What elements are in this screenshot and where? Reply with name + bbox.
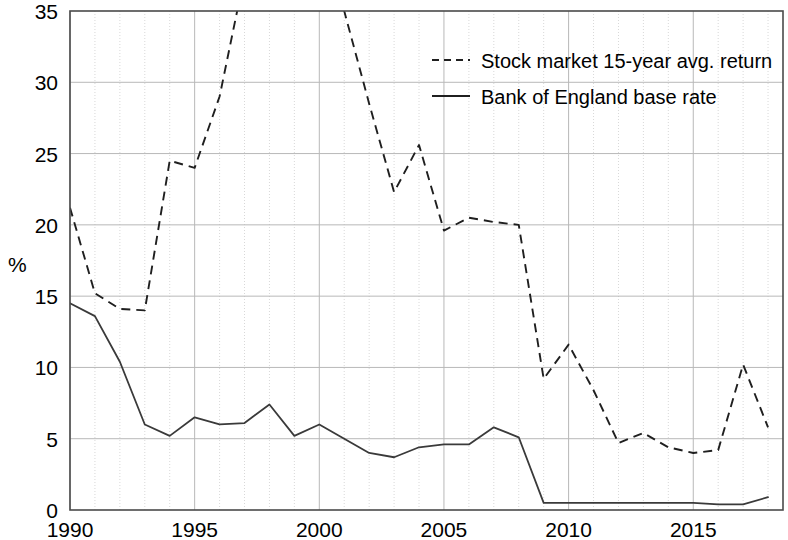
y-tick-label: 30 xyxy=(35,71,58,94)
y-tick-label: 25 xyxy=(35,143,58,166)
series-line-base-rate xyxy=(70,303,768,504)
line-chart: 05101520253035 199019952000200520102015 … xyxy=(0,0,788,540)
x-tick-label: 2015 xyxy=(670,518,717,540)
x-tick-label: 1995 xyxy=(171,518,218,540)
x-tick-label: 2005 xyxy=(421,518,468,540)
major-gridlines-y xyxy=(70,82,783,438)
y-tick-label: 15 xyxy=(35,285,58,308)
x-tick-label: 1990 xyxy=(47,518,94,540)
y-tick-label: 5 xyxy=(46,428,58,451)
y-axis-title: % xyxy=(8,253,27,276)
legend-label-stock-market: Stock market 15-year avg. return xyxy=(481,50,772,72)
x-tick-label: 2010 xyxy=(545,518,592,540)
y-tick-label: 10 xyxy=(35,356,58,379)
y-tick-label: 35 xyxy=(35,0,58,23)
chart-legend: Stock market 15-year avg. return Bank of… xyxy=(432,50,772,108)
legend-label-base-rate: Bank of England base rate xyxy=(481,86,717,108)
y-axis-tick-labels: 05101520253035 xyxy=(35,0,58,522)
chart-container: 05101520253035 199019952000200520102015 … xyxy=(0,0,788,540)
x-tick-label: 2000 xyxy=(296,518,343,540)
y-tick-label: 20 xyxy=(35,214,58,237)
x-axis-tick-labels: 199019952000200520102015 xyxy=(47,518,717,540)
